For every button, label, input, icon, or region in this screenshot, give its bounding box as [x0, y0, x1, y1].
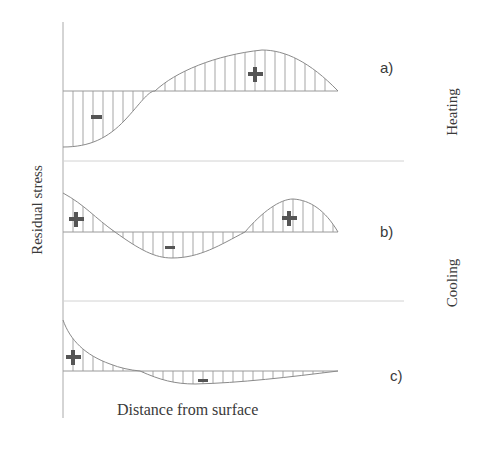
- minus-sign-c: [198, 379, 208, 382]
- panel-c-label: c): [390, 367, 403, 384]
- cooling-group-label: Cooling: [444, 259, 461, 307]
- panel-b-label: b): [380, 223, 393, 240]
- panel-a-label: a): [380, 59, 393, 76]
- minus-sign-a: [91, 115, 102, 119]
- plus-sign-b2-v: [287, 211, 291, 226]
- minus-sign-b: [165, 246, 175, 249]
- panel-b-curve: [63, 180, 338, 270]
- sign-markers: [66, 67, 297, 382]
- residual-stress-diagram: [0, 0, 489, 453]
- plus-sign-c-v: [71, 350, 75, 365]
- y-axis-label: Residual stress: [29, 165, 46, 255]
- plus-sign-b1-v: [74, 212, 78, 227]
- panel-c-curve: [63, 310, 338, 395]
- heating-group-label: Heating: [444, 88, 461, 135]
- x-axis-label: Distance from surface: [117, 401, 258, 419]
- plus-sign-a-v: [253, 67, 257, 82]
- panel-a-curve: [63, 40, 338, 160]
